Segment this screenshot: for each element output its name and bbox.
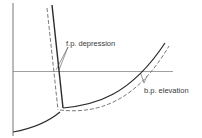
bp-elevation-label: b.p. elevation bbox=[144, 86, 189, 95]
phase-diagram: f.p. depression b.p. elevation bbox=[0, 0, 202, 138]
fp-pointer bbox=[59, 47, 68, 70]
solvent-fusion-curve bbox=[52, 5, 63, 108]
fp-depression-label: f.p. depression bbox=[66, 39, 115, 48]
sublimation-curve bbox=[13, 112, 60, 132]
solution-fusion-curve bbox=[47, 8, 58, 110]
solvent-vaporization-curve bbox=[63, 43, 165, 108]
solution-vaporization-curve bbox=[60, 46, 169, 111]
